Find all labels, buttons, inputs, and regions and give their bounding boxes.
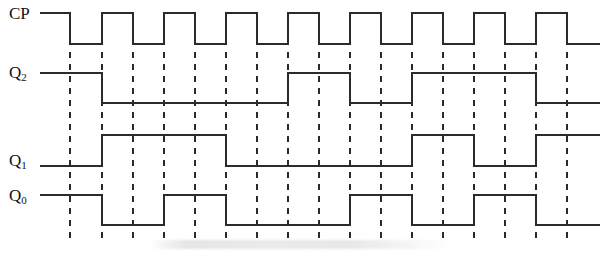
waveform-q2 [40, 73, 600, 103]
timing-diagram: CP Q2 Q1 Q0 [0, 0, 606, 255]
dashed-gridlines [70, 52, 567, 238]
signal-waveforms [40, 13, 600, 225]
signal-label-q0-subscript: 0 [21, 194, 27, 206]
waveform-cp [40, 13, 600, 44]
waveform-q1 [40, 135, 600, 166]
signal-label-q0: Q0 [9, 187, 27, 204]
signal-label-q2-text: Q [9, 63, 21, 82]
signal-label-cp-text: CP [9, 4, 30, 23]
signal-label-q0-text: Q [9, 186, 21, 205]
signal-label-q2-subscript: 2 [21, 71, 27, 83]
signal-label-q1-text: Q [9, 151, 21, 170]
waveform-canvas [0, 0, 606, 255]
signal-label-cp: CP [9, 5, 30, 22]
signal-label-q1-subscript: 1 [21, 159, 27, 171]
signal-label-q1: Q1 [9, 152, 27, 169]
waveform-q0 [40, 195, 600, 225]
signal-label-q2: Q2 [9, 64, 27, 81]
